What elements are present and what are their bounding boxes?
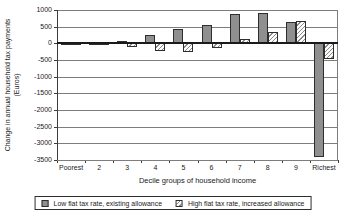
tax-change-bar-chart: Change in annual household tax payments … xyxy=(0,0,346,221)
plot-area xyxy=(57,10,338,160)
legend-label-low-flat-rate: Low flat tax rate, existing allowance xyxy=(54,200,162,207)
x-tick-label: 8 xyxy=(254,163,282,172)
x-tick-label: Poorest xyxy=(57,163,85,172)
y-axis-title-line1: Change in annual household tax payments xyxy=(3,10,12,160)
y-axis-line xyxy=(57,10,58,160)
y-axis-title-line2: (Euros) xyxy=(12,10,21,160)
y-tick-label: -1000 xyxy=(20,73,52,81)
y-tick-label: 1000 xyxy=(20,6,52,14)
x-tick-label: 3 xyxy=(113,163,141,172)
y-tick-label: -2500 xyxy=(20,123,52,131)
gridline xyxy=(57,143,338,144)
y-tick-label: -3000 xyxy=(20,139,52,147)
x-tick-label: 5 xyxy=(169,163,197,172)
x-tick-label: Richest xyxy=(310,163,338,172)
legend: Low flat tax rate, existing allowance Hi… xyxy=(35,196,312,210)
bar-7-series1 xyxy=(230,14,240,43)
y-tick-label: -1500 xyxy=(20,89,52,97)
bar-8-series1 xyxy=(258,13,268,43)
legend-marker-low-flat-rate xyxy=(42,200,49,207)
zero-line xyxy=(57,42,338,44)
bar-5-series2 xyxy=(183,43,193,51)
gridline xyxy=(57,93,338,94)
plot-right-border xyxy=(337,10,338,160)
gridline xyxy=(57,110,338,111)
bar-9-series2 xyxy=(296,21,306,43)
gridline xyxy=(57,127,338,128)
bar-Richest-series1 xyxy=(314,43,324,156)
bar-6-series1 xyxy=(202,25,212,43)
bar-9-series1 xyxy=(286,22,296,43)
y-tick-label: 0 xyxy=(20,39,52,47)
bar-4-series2 xyxy=(155,43,165,51)
bar-Richest-series2 xyxy=(324,43,334,59)
x-tick-label: 7 xyxy=(226,163,254,172)
x-tick-label: 4 xyxy=(141,163,169,172)
gridline xyxy=(57,160,338,161)
y-tick-label: -2000 xyxy=(20,106,52,114)
x-tick-label: 2 xyxy=(85,163,113,172)
bar-5-series1 xyxy=(173,29,183,43)
y-tick-label: -500 xyxy=(20,56,52,64)
gridline xyxy=(57,10,338,11)
x-tick-label: 9 xyxy=(282,163,310,172)
x-axis-title: Decile groups of household income xyxy=(57,176,338,185)
gridline xyxy=(57,60,338,61)
x-axis-tick xyxy=(338,160,339,163)
y-axis-title: Change in annual household tax payments … xyxy=(3,10,21,160)
y-tick-label: -3500 xyxy=(20,156,52,164)
legend-label-high-flat-rate: High flat tax rate, increased allowance xyxy=(188,200,304,207)
y-tick-label: 500 xyxy=(20,23,52,31)
legend-marker-high-flat-rate xyxy=(176,200,183,207)
gridline xyxy=(57,77,338,78)
x-tick-label: 6 xyxy=(198,163,226,172)
